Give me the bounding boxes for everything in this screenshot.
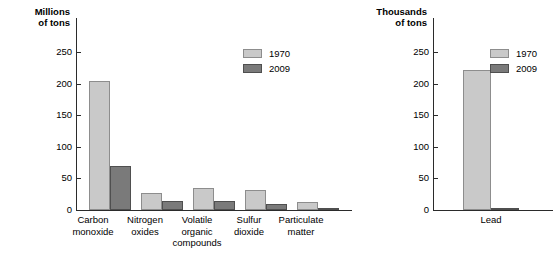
right-chart-legend: 1970 2009	[490, 47, 556, 77]
right-x-axis-line	[433, 210, 553, 211]
right-ytick-label-150: 150	[391, 110, 429, 120]
legend-label-2009: 2009	[269, 62, 290, 75]
category-label-particulate-matter-line1: Particulate	[267, 214, 335, 226]
legend-swatch-2009-icon	[490, 64, 509, 73]
left-x-axis-line	[76, 210, 352, 211]
legend-item-2009[interactable]: 2009	[490, 62, 556, 75]
bar-sulfur-dioxide-2009	[266, 204, 287, 210]
category-label-particulate-matter-line2: matter	[267, 226, 335, 238]
bar-nitrogen-oxides-1970	[141, 193, 162, 210]
legend-item-2009[interactable]: 2009	[243, 62, 313, 75]
left-y-axis-title: Millions of tons	[8, 6, 70, 28]
bar-sulfur-dioxide-1970	[245, 190, 266, 210]
right-ytick-label-250: 250	[391, 47, 429, 57]
category-label-particulate-matter: Particulate matter	[267, 214, 335, 237]
right-chart-panel: Thousands of tons 250 200 150 100 50 0 L…	[357, 0, 557, 256]
right-ytick-label-50: 50	[391, 173, 429, 183]
legend-swatch-2009-icon	[243, 64, 262, 73]
legend-label-1970: 1970	[269, 47, 290, 60]
chart-figure: Millions of tons 250 200 150 100 50 0	[0, 0, 557, 256]
bar-carbon-monoxide-1970	[89, 81, 110, 210]
bar-carbon-monoxide-2009	[110, 166, 131, 210]
legend-swatch-1970-icon	[490, 49, 509, 58]
right-ytick-label-200: 200	[391, 79, 429, 89]
bar-volatile-organic-compounds-2009	[214, 201, 235, 210]
right-y-axis-title: Thousands of tons	[357, 6, 427, 28]
category-label-lead-line1: Lead	[457, 214, 525, 226]
legend-item-1970[interactable]: 1970	[243, 47, 313, 60]
category-label-volatile-organic-compounds-line3: compounds	[163, 237, 231, 249]
bar-nitrogen-oxides-2009	[162, 201, 183, 211]
left-chart-panel: Millions of tons 250 200 150 100 50 0	[0, 0, 357, 256]
left-y-axis-title-line2: of tons	[8, 17, 70, 28]
left-ytick-label-200: 200	[34, 79, 72, 89]
legend-swatch-1970-icon	[243, 49, 262, 58]
left-chart-legend: 1970 2009	[243, 47, 313, 77]
bar-volatile-organic-compounds-1970	[193, 188, 214, 210]
right-y-axis-title-line2: of tons	[357, 17, 427, 28]
left-ytick-label-250: 250	[34, 47, 72, 57]
left-y-axis-title-line1: Millions	[35, 6, 70, 17]
left-ytick-label-100: 100	[34, 142, 72, 152]
right-y-axis-title-line1: Thousands	[376, 6, 427, 17]
right-ytick-label-0: 0	[391, 205, 429, 215]
bar-particulate-matter-1970	[297, 202, 318, 210]
left-ytick-label-50: 50	[34, 173, 72, 183]
bar-lead-1970	[463, 70, 491, 210]
right-ytick-label-100: 100	[391, 142, 429, 152]
bar-particulate-matter-2009	[318, 208, 339, 210]
bar-lead-2009	[491, 208, 519, 210]
left-ytick-label-150: 150	[34, 110, 72, 120]
legend-item-1970[interactable]: 1970	[490, 47, 556, 60]
legend-label-2009: 2009	[516, 62, 537, 75]
category-label-lead: Lead	[457, 214, 525, 226]
legend-label-1970: 1970	[516, 47, 537, 60]
